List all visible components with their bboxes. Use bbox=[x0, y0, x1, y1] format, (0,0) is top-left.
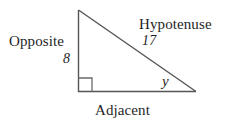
adjacent-side-label: Adjacent bbox=[95, 103, 150, 118]
right-angle-marker-icon bbox=[79, 78, 93, 92]
angle-label-y: y bbox=[162, 74, 169, 89]
opposite-side-label: Opposite bbox=[9, 34, 64, 49]
triangle-diagram: Opposite 8 Hypotenuse 17 Adjacent y bbox=[0, 0, 231, 128]
opposite-side-length: 8 bbox=[63, 52, 70, 66]
hypotenuse-side-length: 17 bbox=[142, 34, 156, 48]
hypotenuse-side-label: Hypotenuse bbox=[139, 17, 212, 32]
